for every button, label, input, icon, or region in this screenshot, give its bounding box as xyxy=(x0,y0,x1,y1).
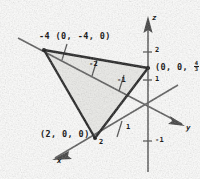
vertex-dot-y-intercept xyxy=(42,48,46,52)
fraction-denominator: 3 xyxy=(194,66,199,73)
vertex-label-z-intercept: (0, 0, 43) xyxy=(155,61,200,73)
tick-label-y-neg1: -1 xyxy=(117,77,126,84)
vertex-coords-y: (0, -4, 0) xyxy=(56,31,111,41)
tick-y-1 xyxy=(117,121,122,137)
x-axis-arrowhead xyxy=(52,151,72,160)
diagram-canvas xyxy=(0,0,200,179)
axis-label-z: z xyxy=(152,14,157,22)
vertex-z-close-paren: ) xyxy=(199,62,200,72)
vertex-z-open-paren: (0, 0, xyxy=(155,62,194,72)
axis-label-x: x xyxy=(57,157,62,165)
vertex-dot-z-intercept xyxy=(146,66,150,70)
tick-label-z-neg1: -1 xyxy=(155,137,164,144)
fraction-four-thirds: 43 xyxy=(194,61,199,73)
tick-label-z-1: 1 xyxy=(155,76,160,83)
coordinate-plane-diagram: -4 (0, -4, 0) (0, 0, 43) (2, 0, 0) z y x… xyxy=(0,0,200,179)
tick-label-z-2: 2 xyxy=(155,47,160,54)
vertex-label-x-intercept: (2, 0, 0) xyxy=(40,130,90,139)
tick-label-x-2: 2 xyxy=(99,139,104,146)
vertex-label-y-intercept: -4 (0, -4, 0) xyxy=(39,32,111,41)
vertex-dot-x-intercept xyxy=(93,136,97,140)
axis-label-y: y xyxy=(186,124,191,132)
tick-label-y-1: 1 xyxy=(126,124,131,131)
tick-label-y-neg2: -2 xyxy=(89,61,98,68)
vertex-tick-neg4: -4 xyxy=(39,31,50,41)
